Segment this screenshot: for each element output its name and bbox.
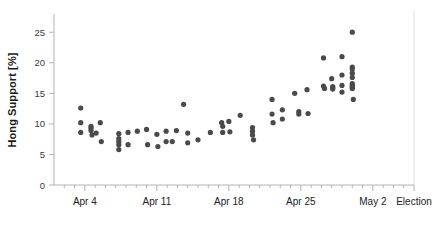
- data-point: [185, 140, 190, 145]
- data-point: [270, 120, 275, 125]
- data-point: [145, 142, 150, 147]
- y-tick-label: 5: [40, 149, 45, 160]
- data-point: [339, 83, 344, 88]
- data-point: [94, 130, 99, 135]
- data-point: [98, 120, 103, 125]
- x-tick-label: Election: [396, 196, 432, 207]
- data-point: [208, 130, 213, 135]
- data-point: [339, 72, 344, 77]
- data-point: [135, 129, 140, 134]
- data-point: [269, 97, 274, 102]
- data-point: [125, 130, 130, 135]
- data-point: [322, 86, 327, 91]
- data-point: [304, 87, 309, 92]
- data-point: [220, 130, 225, 135]
- data-point: [116, 131, 121, 136]
- data-point: [305, 111, 310, 116]
- data-point: [226, 119, 231, 124]
- data-point: [78, 120, 83, 125]
- data-point: [339, 90, 344, 95]
- data-point: [181, 102, 186, 107]
- data-point: [330, 86, 335, 91]
- data-point: [78, 130, 83, 135]
- x-tick-label: Apr 18: [214, 196, 244, 207]
- data-point: [220, 124, 225, 129]
- x-tick-label: Apr 25: [286, 196, 316, 207]
- data-point: [164, 139, 169, 144]
- data-point: [280, 116, 285, 121]
- y-tick-label: 25: [34, 27, 45, 38]
- data-point: [170, 139, 175, 144]
- data-point: [125, 142, 130, 147]
- x-tick-label: Apr 11: [142, 196, 171, 207]
- data-point: [350, 75, 355, 80]
- data-point: [250, 132, 255, 137]
- data-point: [329, 76, 334, 81]
- data-point: [164, 129, 169, 134]
- data-point: [321, 55, 326, 60]
- data-point: [195, 137, 200, 142]
- x-tick-label: May 2: [359, 196, 387, 207]
- data-point: [78, 105, 83, 110]
- data-point: [350, 86, 355, 91]
- data-point: [351, 97, 356, 102]
- y-tick-label: 20: [34, 57, 45, 68]
- data-series: [78, 30, 356, 153]
- data-point: [116, 147, 121, 152]
- data-point: [296, 112, 301, 117]
- scatter-chart: Hong Support [%] 0510152025Apr 4Apr 11Ap…: [0, 0, 444, 232]
- y-tick-label: 0: [40, 180, 45, 191]
- y-tick-label: 15: [34, 88, 45, 99]
- data-point: [292, 91, 297, 96]
- data-point: [144, 127, 149, 132]
- data-point: [238, 113, 243, 118]
- data-point: [185, 130, 190, 135]
- y-tick-label: 10: [34, 118, 45, 129]
- data-point: [227, 129, 232, 134]
- data-point: [155, 144, 160, 149]
- data-point: [269, 112, 274, 117]
- data-point: [339, 54, 344, 59]
- data-point: [174, 128, 179, 133]
- data-point: [99, 139, 104, 144]
- plot-area: 0510152025Apr 4Apr 11Apr 18Apr 25May 2El…: [0, 0, 444, 232]
- data-point: [116, 142, 121, 147]
- data-point: [280, 107, 285, 112]
- data-point: [350, 30, 355, 35]
- data-point: [251, 137, 256, 142]
- data-point: [154, 132, 159, 137]
- x-tick-label: Apr 4: [73, 196, 97, 207]
